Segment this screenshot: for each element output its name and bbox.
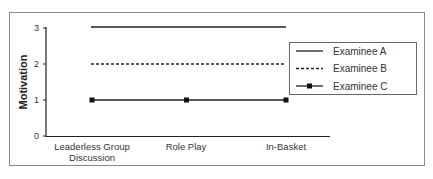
y-tick-3: 3 — [34, 23, 39, 33]
legend-label-c: Examinee C — [333, 81, 387, 92]
marker-square-icon — [284, 98, 289, 103]
marker-square-icon — [184, 98, 189, 103]
y-tick-1: 1 — [34, 95, 39, 105]
chart-svg: 3 2 1 0 Motivation Leaderless Group Disc… — [0, 0, 433, 179]
x-tick-label-2: In-Basket — [266, 141, 306, 152]
legend-marker-square-icon — [307, 84, 312, 89]
x-tick-label-0-line-0: Leaderless Group — [54, 141, 130, 152]
series-examinee-c — [90, 98, 289, 103]
x-tick-labels: Leaderless Group Discussion Role Play In… — [54, 141, 306, 163]
x-tick-label-0-line-1: Discussion — [69, 152, 115, 163]
legend-label-a: Examinee A — [333, 46, 387, 57]
marker-square-icon — [90, 98, 95, 103]
y-tick-2: 2 — [34, 59, 39, 69]
y-ticks: 3 2 1 0 — [34, 23, 46, 141]
legend: Examinee A Examinee B Examinee C — [290, 43, 417, 95]
y-axis-label: Motivation — [17, 54, 29, 109]
y-tick-0: 0 — [34, 131, 39, 141]
x-tick-label-1: Role Play — [166, 141, 207, 152]
legend-label-b: Examinee B — [333, 63, 387, 74]
